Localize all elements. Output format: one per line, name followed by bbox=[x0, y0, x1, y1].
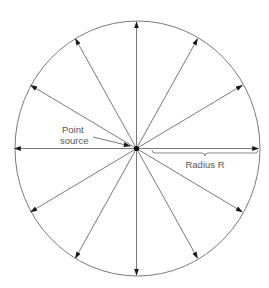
point-source-label-line2: source bbox=[60, 135, 89, 146]
ray-arrow-8 bbox=[31, 149, 137, 212]
ray-arrow-11 bbox=[76, 39, 137, 149]
radius-label: Radius R bbox=[185, 159, 224, 170]
point-source-dot bbox=[134, 146, 139, 151]
ray-arrow-4 bbox=[137, 149, 243, 212]
point-source-diagram: Point source Radius R bbox=[0, 0, 269, 288]
ray-arrow-1 bbox=[137, 39, 198, 149]
point-source-label-line1: Point bbox=[62, 124, 84, 135]
ray-arrow-7 bbox=[76, 149, 137, 259]
radius-bracket bbox=[152, 150, 258, 156]
ray-arrow-2 bbox=[137, 85, 243, 148]
